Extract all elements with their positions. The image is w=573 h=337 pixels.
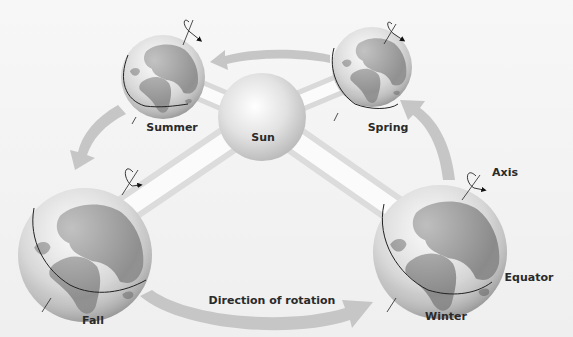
label-sun: Sun (251, 131, 275, 144)
label-winter: Winter (425, 310, 467, 323)
diagram-canvas (0, 0, 573, 337)
globe-summer (121, 20, 205, 124)
orbit-arrow-spring-to-summer (210, 50, 330, 70)
label-fall: Fall (82, 314, 104, 327)
orbit-arrow-winter-to-spring (400, 100, 455, 180)
orbit-arrow-summer-to-fall (70, 105, 126, 170)
label-summer: Summer (146, 121, 198, 134)
globe-spring (332, 22, 412, 121)
seasons-diagram: Sun Summer Spring Fall Winter Axis Equat… (0, 0, 573, 337)
label-direction-of-rotation: Direction of rotation (209, 294, 336, 307)
label-spring: Spring (368, 121, 409, 134)
sun-sphere (218, 73, 306, 161)
label-axis: Axis (492, 166, 518, 179)
label-equator: Equator (505, 271, 554, 284)
